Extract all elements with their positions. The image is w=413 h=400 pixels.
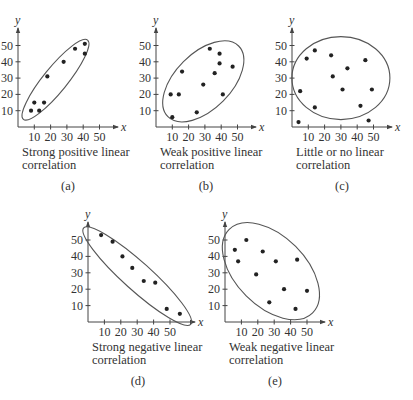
- data-point: [298, 89, 302, 93]
- data-point: [363, 58, 367, 62]
- x-tick-label: 50: [94, 130, 106, 144]
- correlation-figure: xy10203040501020304050Strong positive li…: [0, 0, 413, 400]
- data-point: [169, 92, 173, 96]
- data-point: [367, 118, 371, 122]
- y-axis-label: y: [221, 207, 228, 221]
- data-point: [267, 300, 271, 304]
- x-tick-label: 20: [252, 325, 264, 339]
- y-tick-label: 50: [139, 39, 151, 53]
- y-tick-label: 30: [275, 71, 287, 85]
- panel-caption: Strong negative linear: [92, 340, 203, 354]
- data-point: [62, 60, 66, 64]
- data-point: [295, 258, 299, 262]
- y-tick-label: 30: [71, 266, 83, 280]
- data-point: [274, 259, 278, 263]
- y-tick-label: 50: [71, 233, 83, 247]
- x-tick-label: 40: [285, 325, 297, 339]
- y-axis-label: y: [14, 13, 21, 27]
- data-point: [358, 104, 362, 108]
- x-tick-label: 30: [268, 325, 280, 339]
- data-point: [282, 287, 286, 291]
- data-point: [99, 233, 103, 237]
- data-point: [329, 53, 333, 57]
- y-tick-label: 40: [275, 55, 287, 69]
- data-point: [153, 281, 157, 285]
- data-point: [293, 307, 297, 311]
- y-tick-label: 20: [1, 87, 13, 101]
- scatter-panel-d: xy10203040501020304050Strong negative li…: [71, 207, 204, 388]
- y-tick-label: 50: [275, 39, 287, 53]
- y-tick-label: 20: [71, 282, 83, 296]
- y-axis-label: y: [288, 13, 295, 27]
- data-point: [32, 100, 36, 104]
- data-point: [42, 100, 46, 104]
- correlation-ellipse: [292, 37, 390, 120]
- data-point: [111, 240, 115, 244]
- correlation-ellipse: [148, 26, 258, 136]
- data-point: [177, 92, 181, 96]
- data-point: [83, 52, 87, 56]
- data-point: [313, 48, 317, 52]
- x-tick-label: 30: [131, 325, 143, 339]
- x-tick-label: 40: [148, 325, 160, 339]
- y-tick-label: 40: [208, 249, 220, 263]
- data-point: [370, 87, 374, 91]
- y-tick-label: 40: [139, 55, 151, 69]
- data-point: [254, 272, 258, 276]
- data-point: [208, 47, 212, 51]
- data-point: [236, 259, 240, 263]
- y-axis-label: y: [84, 207, 91, 221]
- panel-label: (d): [131, 374, 146, 388]
- x-tick-label: 40: [215, 130, 227, 144]
- panel-caption: correlation: [22, 158, 77, 172]
- correlation-ellipse: [14, 33, 97, 127]
- panel-caption: Weak positive linear: [160, 145, 263, 159]
- x-tick-label: 50: [232, 130, 244, 144]
- x-tick-label: 50: [368, 130, 380, 144]
- data-point: [45, 74, 49, 78]
- scatter-panel-c: xy10203040501020304050Little or no linea…: [275, 13, 401, 193]
- y-tick-label: 10: [1, 104, 13, 118]
- y-tick-label: 40: [1, 55, 13, 69]
- panel-caption: correlation: [229, 353, 284, 367]
- data-point: [244, 238, 248, 242]
- data-point: [231, 65, 235, 69]
- y-tick-label: 30: [1, 71, 13, 85]
- x-tick-label: 30: [61, 130, 73, 144]
- panel-caption: Little or no linear: [296, 145, 385, 159]
- scatter-panel-a: xy10203040501020304050Strong positive li…: [1, 13, 130, 193]
- x-tick-label: 10: [302, 130, 314, 144]
- data-point: [340, 87, 344, 91]
- data-point: [331, 74, 335, 78]
- data-point: [201, 83, 205, 87]
- x-tick-label: 50: [164, 325, 176, 339]
- data-point: [170, 115, 174, 119]
- x-tick-label: 40: [351, 130, 363, 144]
- data-point: [37, 109, 41, 113]
- data-point: [345, 66, 349, 70]
- panel-caption: Strong positive linear: [22, 145, 130, 159]
- y-tick-label: 50: [1, 39, 13, 53]
- y-axis-label: y: [152, 13, 159, 27]
- data-point: [217, 52, 221, 56]
- y-tick-label: 40: [71, 249, 83, 263]
- data-point: [165, 307, 169, 311]
- panel-caption: correlation: [296, 158, 351, 172]
- data-point: [180, 69, 184, 73]
- correlation-ellipse: [74, 217, 200, 334]
- scatter-panels: xy10203040501020304050Strong positive li…: [1, 13, 401, 388]
- data-point: [73, 47, 77, 51]
- y-tick-label: 20: [275, 87, 287, 101]
- panel-label: (a): [61, 179, 75, 193]
- y-tick-label: 10: [275, 104, 287, 118]
- data-point: [213, 71, 217, 75]
- data-point: [195, 110, 199, 114]
- y-tick-label: 10: [208, 299, 220, 313]
- x-tick-label: 20: [45, 130, 57, 144]
- data-point: [305, 289, 309, 293]
- x-tick-label: 20: [319, 130, 331, 144]
- correlation-ellipse: [204, 205, 337, 338]
- panel-label: (c): [335, 179, 349, 193]
- y-tick-label: 10: [139, 104, 151, 118]
- x-tick-label: 10: [166, 130, 178, 144]
